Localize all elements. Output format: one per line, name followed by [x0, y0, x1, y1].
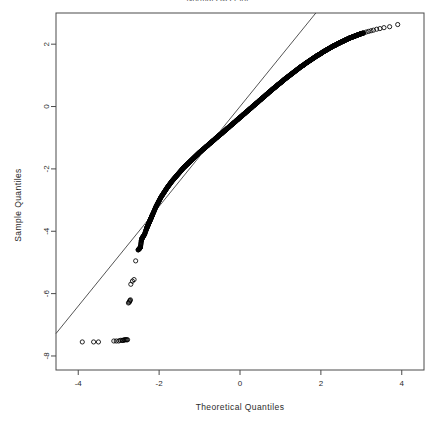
data-point [134, 259, 138, 263]
plot-canvas: -4-202420-2-4-6-8 Theoretical Quantiles … [0, 0, 435, 425]
y-tick-label: -2 [42, 165, 51, 173]
x-tick-label: -2 [156, 379, 164, 388]
reference-line [56, 13, 316, 334]
y-axis-label: Sample Quantiles [13, 168, 23, 242]
data-points [80, 22, 400, 344]
y-tick-label: 0 [42, 104, 51, 109]
qq-reference-line [56, 13, 316, 334]
x-tick-label: 0 [238, 379, 243, 388]
data-point [92, 340, 96, 344]
x-tick-label: 4 [400, 379, 405, 388]
data-point [96, 340, 100, 344]
data-point [396, 22, 400, 26]
data-point [388, 25, 392, 29]
frame-rect [56, 13, 424, 370]
x-tick-label: 2 [319, 379, 324, 388]
plot-frame [56, 13, 424, 370]
data-point [80, 340, 84, 344]
data-point [382, 26, 386, 30]
y-tick-label: -6 [42, 290, 51, 298]
axis-ticks [51, 44, 402, 375]
y-tick-label: -4 [42, 227, 51, 235]
x-tick-label: -4 [75, 379, 83, 388]
qq-plot-figure: Normal Q-Q Plot -4-202420-2-4-6-8 Theore… [0, 0, 435, 425]
axis-tick-labels: -4-202420-2-4-6-8 [42, 41, 404, 388]
y-tick-label: 2 [42, 41, 51, 46]
x-axis-label: Theoretical Quantiles [196, 402, 285, 412]
y-tick-label: -8 [42, 352, 51, 360]
